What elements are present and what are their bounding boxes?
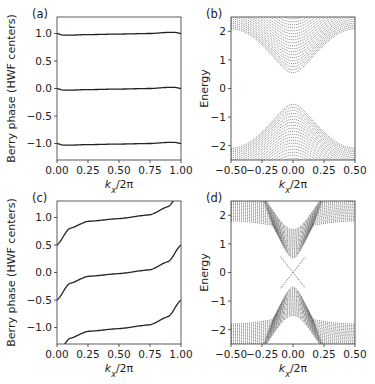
x-tick-label: 0.00 bbox=[281, 348, 304, 360]
band-line bbox=[231, 29, 355, 73]
band-line bbox=[231, 191, 355, 231]
x-tick-label: 0.00 bbox=[45, 164, 68, 176]
y-axis-label: Energy bbox=[198, 69, 211, 108]
band-line bbox=[231, 307, 355, 346]
band-line bbox=[231, 309, 355, 348]
band-line bbox=[231, 203, 355, 242]
panel-label: (a) bbox=[32, 7, 48, 21]
y-tick-label: −0.5 bbox=[27, 110, 53, 122]
band-line bbox=[231, 17, 355, 55]
panel-label: (c) bbox=[32, 191, 47, 205]
band-line bbox=[231, 0, 355, 10]
data-line bbox=[57, 190, 181, 245]
y-tick-label: −1 bbox=[211, 295, 226, 307]
x-tick-label: 0.25 bbox=[76, 348, 99, 360]
x-tick-label: 0.50 bbox=[107, 348, 130, 360]
band-line bbox=[231, 0, 355, 13]
band-line bbox=[231, 299, 355, 337]
data-line bbox=[57, 142, 181, 145]
figure: 0.000.250.500.751.00−1.0−0.50.00.51.0kx/… bbox=[0, 0, 375, 384]
axes-frame bbox=[57, 201, 181, 344]
x-tick-label: −0.25 bbox=[246, 164, 278, 176]
y-tick-label: 2 bbox=[219, 209, 226, 221]
band-line bbox=[231, 13, 355, 49]
band-line bbox=[231, 303, 355, 342]
y-tick-label: 0 bbox=[219, 266, 226, 278]
band-line bbox=[231, 205, 355, 244]
y-tick-label: −2 bbox=[211, 140, 226, 152]
band-line bbox=[231, 122, 355, 160]
x-tick-label: 0.00 bbox=[281, 164, 304, 176]
band-line bbox=[231, 193, 355, 233]
panel-label: (b) bbox=[206, 7, 222, 21]
band-line bbox=[231, 0, 355, 25]
edge-state-line bbox=[281, 257, 306, 288]
x-tick-label: 0.50 bbox=[107, 164, 130, 176]
band-line bbox=[231, 208, 355, 246]
plot-area bbox=[57, 190, 181, 355]
x-tick-label: −0.50 bbox=[215, 164, 247, 176]
band-line bbox=[231, 194, 355, 234]
x-tick-label: 0.25 bbox=[312, 348, 335, 360]
band-line bbox=[231, 0, 355, 28]
y-tick-label: 1.0 bbox=[35, 211, 52, 223]
y-axis-label: Berry phase (HWF centers) bbox=[5, 14, 18, 163]
data-line bbox=[57, 87, 181, 90]
band-line bbox=[231, 199, 355, 238]
band-line bbox=[231, 200, 355, 239]
x-tick-label: 0.50 bbox=[343, 164, 366, 176]
y-tick-label: 0.0 bbox=[35, 82, 52, 94]
plot-area bbox=[57, 32, 181, 145]
panel-a: 0.000.250.500.751.00−1.0−0.50.00.51.0kx/… bbox=[5, 7, 193, 195]
data-line bbox=[57, 32, 181, 35]
x-tick-label: 1.00 bbox=[169, 348, 192, 360]
panel-label: (d) bbox=[206, 191, 222, 205]
band-line bbox=[231, 3, 355, 36]
x-tick-label: 0.75 bbox=[138, 164, 161, 176]
band-line bbox=[231, 10, 355, 45]
panel-d: −0.50−0.250.000.250.50−2−1012kx/2πEnergy… bbox=[198, 190, 367, 379]
y-tick-label: 0.5 bbox=[35, 55, 52, 67]
y-axis-label: Energy bbox=[198, 253, 211, 292]
band-line bbox=[231, 305, 355, 344]
plot-area bbox=[231, 190, 355, 356]
band-line bbox=[231, 128, 355, 164]
band-line bbox=[231, 0, 355, 31]
y-tick-label: 0 bbox=[219, 82, 226, 94]
y-tick-label: −0.5 bbox=[27, 294, 53, 306]
band-line bbox=[231, 221, 355, 258]
band-line bbox=[231, 197, 355, 236]
panel-c: 0.000.250.500.751.00−1.0−0.50.00.51.0kx/… bbox=[5, 190, 193, 379]
y-tick-label: −1.0 bbox=[27, 137, 53, 149]
band-line bbox=[231, 287, 355, 324]
y-tick-label: 2 bbox=[219, 25, 226, 37]
x-tick-label: −0.25 bbox=[246, 348, 278, 360]
x-axis-label: kx/2π bbox=[279, 362, 308, 379]
y-tick-label: 1.0 bbox=[35, 27, 52, 39]
band-line bbox=[231, 0, 355, 16]
x-tick-label: 0.25 bbox=[312, 164, 335, 176]
band-line bbox=[231, 206, 355, 245]
y-tick-label: 1 bbox=[219, 54, 226, 66]
x-tick-label: 0.00 bbox=[45, 348, 68, 360]
band-line bbox=[231, 8, 355, 43]
y-axis-label: Berry phase (HWF centers) bbox=[5, 198, 18, 347]
x-tick-label: 0.25 bbox=[76, 164, 99, 176]
band-line bbox=[231, 306, 355, 345]
band-line bbox=[231, 196, 355, 236]
y-tick-label: −1 bbox=[211, 111, 226, 123]
band-line bbox=[231, 0, 355, 19]
band-line bbox=[231, 104, 355, 148]
y-tick-label: −2 bbox=[211, 324, 226, 336]
x-tick-label: 0.50 bbox=[343, 348, 366, 360]
axes-frame bbox=[231, 17, 355, 160]
panel-b: −0.50−0.250.000.250.50−2−1012kx/2πEnergy… bbox=[198, 0, 367, 197]
band-line bbox=[231, 300, 355, 339]
y-tick-label: −1.0 bbox=[27, 321, 53, 333]
x-tick-label: 1.00 bbox=[169, 164, 192, 176]
data-line bbox=[57, 245, 181, 300]
y-tick-label: 1 bbox=[219, 238, 226, 250]
x-axis-label: kx/2π bbox=[279, 178, 308, 195]
band-line bbox=[231, 310, 355, 350]
y-tick-label: 0.0 bbox=[35, 266, 52, 278]
